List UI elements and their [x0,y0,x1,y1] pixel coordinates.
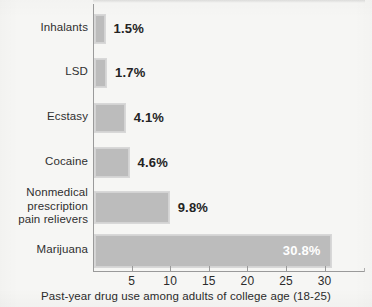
x-tick-mark [325,266,326,272]
category-label: Nonmedical prescription pain relievers [18,186,88,227]
bar-ecstasy [94,103,126,133]
category-label: Cocaine [45,155,88,169]
x-tick-label: 5 [128,274,135,288]
bar-value-label: 1.5% [114,21,144,36]
bar-value-label: 4.6% [138,155,168,170]
bar-lsd [94,58,107,88]
top-crop-artifact [93,0,365,3]
bar-nonmedical-prescription-pain-relievers [94,191,170,224]
bar-inhalants [94,14,106,44]
x-tick-label: 10 [163,274,177,288]
x-tick-mark [247,266,248,272]
x-tick-mark [132,266,133,272]
x-tick-label: 30 [318,274,332,288]
category-label: LSD [65,65,88,79]
x-tick-mark [286,266,287,272]
x-tick-label: 25 [279,274,293,288]
y-axis-line [93,4,94,272]
x-tick-label: 15 [202,274,216,288]
category-label: Ecstasy [47,110,88,124]
bar-value-label: 9.8% [178,200,208,215]
horizontal-bar-chart: Inhalants1.5%LSD1.7%Ecstasy4.1%Cocaine4.… [0,0,372,307]
bar-value-label: 4.1% [134,110,164,125]
bar-cocaine [94,147,130,178]
x-tick-mark [209,266,210,272]
category-label: Inhalants [40,21,88,35]
x-tick-label: 20 [241,274,255,288]
category-label: Marijuana [37,243,88,257]
x-tick-mark [170,266,171,272]
x-axis-end-tick [364,268,365,272]
chart-caption: Past-year drug use among adults of colle… [0,290,372,302]
bar-value-label: 1.7% [115,65,145,80]
bar-value-label: 30.8% [283,243,321,258]
